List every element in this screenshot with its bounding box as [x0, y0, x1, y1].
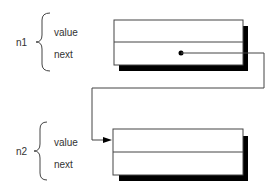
node-n1-field-value: value [54, 27, 78, 38]
brace-n1 [36, 13, 50, 71]
node-n2-name: n2 [16, 146, 28, 157]
node-n1: n1 value next [16, 13, 248, 71]
node-n2: n2 value next [16, 122, 248, 181]
node-n1-field-next: next [54, 49, 73, 60]
node-n2-field-next: next [54, 159, 73, 170]
arrowhead-icon [103, 137, 112, 143]
node-n2-field-value: value [54, 137, 78, 148]
linked-list-diagram: n1 value next n2 value next [0, 0, 274, 191]
node-n1-name: n1 [16, 37, 28, 48]
brace-n2 [34, 122, 47, 180]
